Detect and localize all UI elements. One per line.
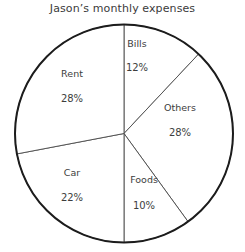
slice-label-bills: Bills [127,38,146,49]
slice-value-foods: 10% [133,200,155,211]
pie-slices [15,24,233,242]
slice-value-car: 22% [61,192,83,203]
pie-chart-figure: Jason’s monthly expenses Bills12%Others2… [0,0,245,252]
slice-label-foods: Foods [130,174,158,185]
slice-value-others: 28% [169,127,191,138]
slice-label-rent: Rent [61,68,83,79]
slice-label-car: Car [64,167,80,178]
slice-value-rent: 28% [61,93,83,104]
slice-label-others: Others [164,102,196,113]
slice-value-bills: 12% [126,62,148,73]
pie-slice-rent[interactable] [15,25,124,154]
pie-chart-canvas: Bills12%Others28%Foods10%Car22%Rent28% [0,0,245,252]
